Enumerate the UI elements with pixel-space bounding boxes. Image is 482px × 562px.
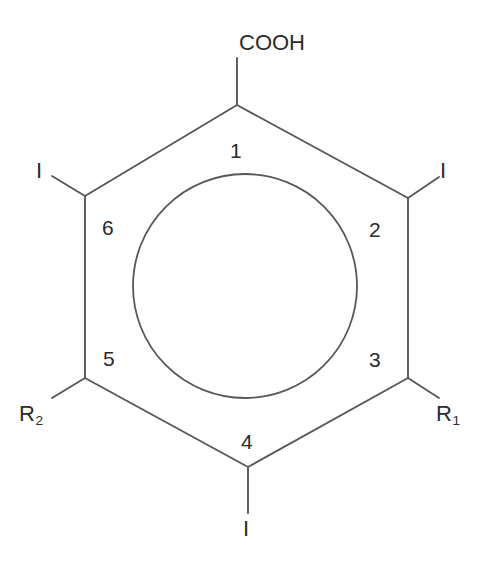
r1-subscript: 1	[452, 413, 460, 428]
r1-base: R	[436, 401, 452, 426]
position-label-1: 1	[230, 140, 242, 161]
bond-c5-r2	[52, 378, 85, 398]
position-label-6: 6	[102, 217, 114, 238]
aromatic-ring-circle	[133, 174, 357, 398]
chemical-structure-svg	[0, 0, 482, 562]
bond-c4-c5	[85, 378, 248, 467]
r2-subscript: 2	[35, 413, 43, 428]
position-label-4: 4	[241, 431, 253, 452]
bond-c1-c2	[237, 105, 408, 198]
position-label-2: 2	[369, 219, 381, 240]
substituent-label-iodine-position-2: I	[440, 160, 446, 182]
bond-c2-iodine	[408, 177, 439, 198]
bond-c6-c1	[85, 105, 237, 196]
substituent-label-iodine-position-4: I	[243, 518, 249, 540]
position-label-5: 5	[103, 348, 115, 369]
substituent-label-cooh: COOH	[239, 32, 305, 54]
structure-diagram-canvas: 1 2 3 4 5 6 COOH I R1 I R2 I	[0, 0, 482, 562]
bond-c3-r1	[408, 378, 439, 398]
substituent-label-iodine-position-6: I	[36, 160, 42, 182]
r2-base: R	[19, 401, 35, 426]
bond-c6-iodine	[52, 176, 85, 196]
substituent-label-r1: R1	[436, 403, 459, 425]
position-label-3: 3	[369, 349, 381, 370]
bond-c3-c4	[248, 378, 408, 467]
substituent-label-r2: R2	[19, 403, 42, 425]
